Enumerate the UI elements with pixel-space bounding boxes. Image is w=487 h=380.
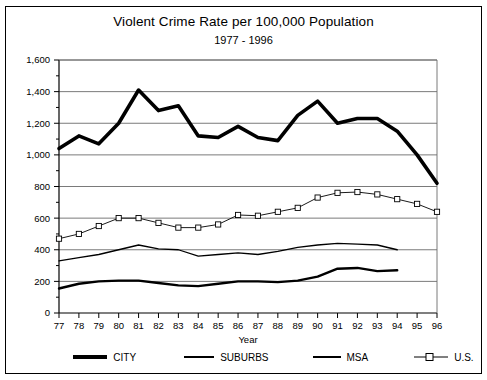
legend-swatch-suburbs-icon [184,356,214,359]
legend-item-suburbs[interactable]: SUBURBS [136,352,268,363]
x-tick-label: 90 [312,320,323,331]
series-marker-us [395,197,400,202]
y-tick-label: 400 [34,244,50,255]
x-axis-tick-labels: 7778798081828384858687888990919293949596 [54,320,443,331]
series-marker-us [76,231,81,236]
series-marker-us [176,225,181,230]
legend-label-msa: MSA [347,352,369,363]
chart-legend: CITY SUBURBS MSA U.S. [0,347,487,367]
series-marker-us [216,222,221,227]
series-marker-us [275,209,280,214]
series-line-suburbs [59,268,397,289]
series-marker-us [156,220,161,225]
y-tick-label: 1,200 [26,118,50,129]
y-tick-label: 1,600 [26,54,50,65]
x-tick-label: 83 [173,320,184,331]
x-tick-label: 85 [213,320,224,331]
legend-swatch-msa-icon [313,356,341,358]
series-marker-us [295,205,300,210]
series-marker-us [96,223,101,228]
series-line-city [59,90,437,183]
y-tick-label: 1,400 [26,86,50,97]
legend-swatch-us-icon [414,352,448,362]
y-tick-label: 600 [34,213,50,224]
series-marker-us [136,216,141,221]
series-marker-us [355,189,360,194]
legend-item-msa[interactable]: MSA [269,352,369,363]
series-marker-us [335,190,340,195]
series-marker-us [56,236,61,241]
x-tick-label: 94 [392,320,403,331]
x-tick-label: 77 [54,320,65,331]
x-tick-label: 79 [94,320,105,331]
legend-label-us: U.S. [454,352,473,363]
x-tick-label: 95 [412,320,423,331]
x-tick-label: 84 [193,320,204,331]
legend-swatch-city-icon [73,355,107,359]
series-marker-us [116,216,121,221]
y-axis-major-ticks [54,60,59,313]
x-tick-label: 88 [273,320,284,331]
y-tick-label: 800 [34,181,50,192]
legend-label-suburbs: SUBURBS [220,352,268,363]
gridlines [59,60,437,281]
x-tick-label: 96 [432,320,443,331]
chart-figure: Violent Crime Rate per 100,000 Populatio… [0,0,487,380]
x-tick-label: 87 [253,320,264,331]
series-line-msa [59,243,397,260]
series-marker-us [315,195,320,200]
y-tick-label: 1,000 [26,149,50,160]
series-marker-us [375,192,380,197]
data-series-group [56,90,439,288]
y-axis-tick-labels: 02004006008001,0001,2001,4001,600 [26,54,50,318]
x-tick-label: 81 [133,320,144,331]
plot-area: 02004006008001,0001,2001,4001,600 777879… [0,0,487,380]
x-tick-label: 82 [153,320,164,331]
series-marker-us [255,213,260,218]
x-tick-label: 93 [372,320,383,331]
chart-canvas: 02004006008001,0001,2001,4001,600 777879… [0,0,487,380]
x-tick-label: 78 [74,320,85,331]
legend-item-us[interactable]: U.S. [368,352,473,363]
x-tick-label: 80 [113,320,124,331]
x-tick-label: 86 [233,320,244,331]
series-marker-us [235,212,240,217]
y-tick-label: 0 [45,307,50,318]
x-axis-ticks [59,313,437,318]
series-marker-us [434,209,439,214]
legend-label-city: CITY [113,352,136,363]
x-tick-label: 89 [292,320,303,331]
series-marker-us [196,225,201,230]
x-tick-label: 92 [352,320,363,331]
x-tick-label: 91 [332,320,343,331]
y-tick-label: 200 [34,276,50,287]
x-axis-title: Year [238,334,257,345]
series-marker-us [415,201,420,206]
legend-item-city[interactable]: CITY [13,352,136,363]
